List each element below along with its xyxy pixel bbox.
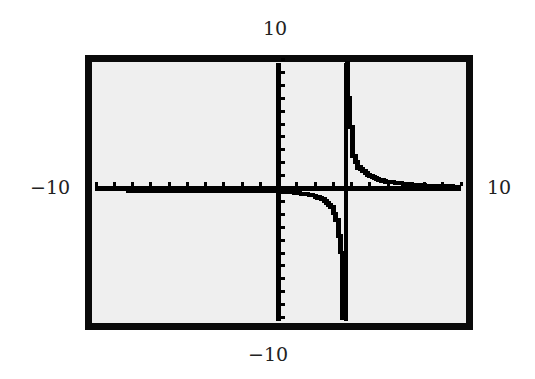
y-tick xyxy=(281,303,285,306)
y-tick xyxy=(281,226,285,229)
y-tick xyxy=(281,239,285,242)
x-tick xyxy=(204,182,207,186)
y-tick xyxy=(281,277,285,280)
x-tick xyxy=(295,182,298,186)
curve-right-branch xyxy=(347,96,352,129)
x-tick xyxy=(113,182,116,186)
y-tick xyxy=(281,123,285,126)
y-tick xyxy=(281,58,285,61)
y-tick xyxy=(281,252,285,255)
y-tick xyxy=(281,84,285,87)
x-tick xyxy=(168,182,171,186)
y-tick xyxy=(281,316,285,319)
curve-right-branch xyxy=(345,61,350,100)
x-tick xyxy=(131,182,134,186)
y-tick xyxy=(281,200,285,203)
y-tick xyxy=(281,290,285,293)
x-tick xyxy=(259,182,262,186)
y-tick xyxy=(281,264,285,267)
y-tick xyxy=(281,135,285,138)
curve-left-tail xyxy=(126,189,278,193)
curve-right-tail xyxy=(417,185,461,191)
y-tick xyxy=(281,97,285,100)
y-tick xyxy=(281,174,285,177)
x-tick xyxy=(368,182,371,186)
y-tick xyxy=(281,110,285,113)
x-tick xyxy=(332,182,335,186)
x-tick xyxy=(186,182,189,186)
curve-left-branch xyxy=(340,251,345,320)
y-tick xyxy=(281,148,285,151)
y-tick xyxy=(281,161,285,164)
x-tick xyxy=(241,182,244,186)
x-tick xyxy=(95,182,98,186)
x-tick xyxy=(149,182,152,186)
y-tick xyxy=(281,213,285,216)
calculator-screen xyxy=(0,0,535,379)
x-tick xyxy=(222,182,225,186)
x-tick xyxy=(314,182,317,186)
x-tick xyxy=(350,182,353,186)
y-tick xyxy=(281,71,285,74)
curve-right-branch xyxy=(350,125,355,158)
